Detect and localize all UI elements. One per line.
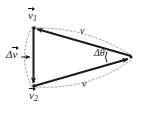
label-delta-v-vector-symbol: v: [12, 49, 17, 60]
vertex-dot-apex: [129, 55, 132, 58]
vector-arrow-overbar-icon: [29, 88, 35, 89]
vector-arrow-overbar-icon: [28, 8, 34, 9]
label-arc-top-speed: v: [80, 26, 84, 36]
angle-arc-delta-theta: [106, 52, 108, 63]
vector-v2-line: [34, 59, 128, 86]
label-v2-subscript: 2: [34, 94, 38, 103]
label-v1-vector-symbol: v: [28, 10, 33, 21]
vector-diagram-figure: v1 v2 Δv Δθ v v: [0, 0, 143, 113]
label-v1: v1: [28, 10, 37, 23]
vector-diagram-svg: [0, 0, 143, 113]
label-v2-vector-symbol: v: [29, 90, 34, 101]
label-delta-v: Δv: [6, 49, 17, 60]
label-v1-subscript: 1: [33, 14, 37, 23]
vertex-dot-top-left: [32, 26, 36, 30]
vector-arrow-overbar-icon: [12, 47, 18, 48]
label-v2: v2: [29, 90, 38, 103]
label-arc-bottom-speed: v: [82, 79, 86, 89]
label-delta-theta: Δθ: [94, 48, 105, 58]
